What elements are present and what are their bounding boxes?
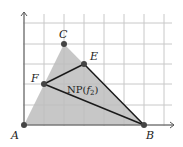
- point-label-f: F: [30, 72, 39, 85]
- point-label-c: C: [59, 28, 68, 41]
- point-f: [41, 81, 47, 87]
- point-label-e: E: [89, 50, 98, 63]
- point-c: [61, 41, 67, 47]
- point-b: [141, 122, 147, 128]
- point-a: [21, 122, 27, 128]
- newton-polygon-figure: ABCEF NP(f2): [0, 0, 183, 147]
- point-label-a: A: [10, 129, 19, 142]
- point-label-b: B: [145, 129, 154, 142]
- point-e: [81, 61, 87, 67]
